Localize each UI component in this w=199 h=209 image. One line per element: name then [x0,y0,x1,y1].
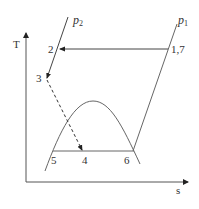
process-3-to-4 [47,80,82,150]
p2-label: p2 [72,13,83,28]
point-label-2: 2 [48,43,54,55]
point-label-6: 6 [124,154,130,166]
point-label-4: 4 [82,154,88,166]
t-s-diagram: T s p2 p1 1,7 2 3 4 5 6 [0,0,199,209]
y-axis-label: T [13,38,20,50]
axes: T s [13,33,188,196]
p1-label: p1 [177,13,188,28]
pressure-line-p1: p1 [133,13,188,151]
point-label-5: 5 [51,154,57,166]
x-axis-label: s [176,184,180,196]
point-label-3: 3 [36,72,42,84]
point-label-1-7: 1,7 [171,43,185,55]
